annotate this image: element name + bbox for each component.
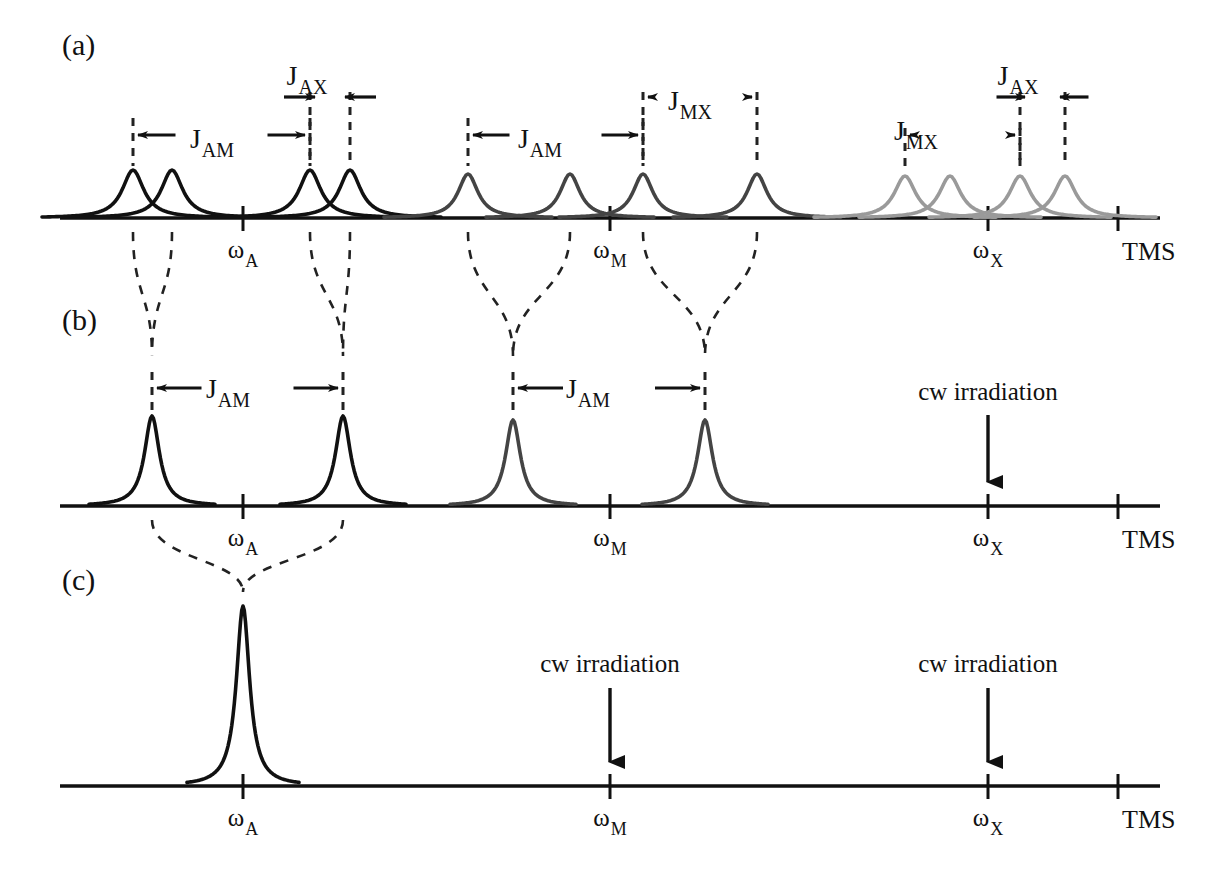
peak-a-A-3: [259, 170, 441, 217]
cw-irradiation-X-label: cw irradiation: [918, 378, 1058, 405]
peak-a-X-11: [974, 176, 1156, 217]
merge-M1-left: [468, 232, 513, 356]
peak-a-X-8: [814, 176, 996, 217]
merge-M1-right: [513, 232, 570, 356]
J-AM-left-label: JAM: [206, 373, 250, 411]
merge-A2-left: [310, 232, 343, 356]
cw-irradiation-X-label: cw irradiation: [918, 650, 1058, 677]
panel-b: (b)ωAωMωXTMSJAMJAMcw irradiation: [60, 303, 1175, 559]
panel-a: (a)ωAωMωXTMSJAMJAXJAMJMXJMXJAX: [42, 28, 1175, 271]
axis-label-omega-X-a: ωX: [973, 236, 1003, 271]
peak-a-M-6: [559, 174, 727, 217]
merge-A2-right: [343, 232, 350, 356]
peak-a-A-0: [42, 170, 224, 217]
J-AM-right-label: JAM: [566, 373, 610, 411]
peak-a-M-7: [673, 174, 841, 217]
axis-label-omega-X-b: ωX: [973, 524, 1003, 559]
panel-label-a: (a): [62, 28, 95, 62]
J-MX-right-label: JMX: [894, 115, 939, 153]
axis-label-tms-a: TMS: [1122, 237, 1175, 266]
peak-a-A-2: [219, 170, 401, 217]
merge-A1-right: [152, 232, 172, 356]
peak-b-A-0: [89, 416, 215, 504]
axis-label-omega-X-c: ωX: [973, 804, 1003, 839]
peak-c-A-0: [187, 606, 299, 782]
correlation-links-a-to-b: [133, 232, 757, 356]
panel-label-c: (c): [62, 563, 95, 597]
peak-a-M-5: [486, 174, 654, 217]
J-MX-mid-label: JMX: [668, 85, 713, 123]
axis-label-omega-A-a: ωA: [228, 236, 258, 271]
axis-label-omega-A-c: ωA: [228, 804, 258, 839]
figure-canvas: (a)ωAωMωXTMSJAMJAXJAMJMXJMXJAX(b)ωAωMωXT…: [0, 0, 1220, 882]
axis-label-omega-M-c: ωM: [593, 804, 626, 839]
J-AM-left-label: JAM: [190, 123, 234, 161]
J-AX-right-label: JAX: [998, 60, 1039, 98]
peak-a-M-4: [384, 174, 552, 217]
peak-b-M-2: [450, 420, 576, 504]
axis-label-omega-A-b: ωA: [228, 524, 258, 559]
merge-M2-right: [705, 232, 757, 356]
merge-M2-left: [643, 232, 705, 356]
axis-label-tms-b: TMS: [1122, 525, 1175, 554]
panel-c: (c)ωAωMωXTMScw irradiationcw irradiation: [60, 563, 1175, 839]
nmr-decoupling-figure: (a)ωAωMωXTMSJAMJAXJAMJMXJMXJAX(b)ωAωMωXT…: [0, 0, 1220, 882]
peak-a-A-1: [81, 170, 263, 217]
panel-label-b: (b): [62, 303, 97, 337]
J-AX-left-label: JAX: [287, 60, 328, 98]
axis-label-omega-M-b: ωM: [593, 524, 626, 559]
peak-b-M-3: [642, 420, 768, 504]
axis-label-tms-c: TMS: [1122, 805, 1175, 834]
axis-label-omega-M-a: ωM: [593, 236, 626, 271]
cw-irradiation-M-label: cw irradiation: [540, 650, 680, 677]
J-AM-right-label: JAM: [518, 123, 562, 161]
merge-A1-left: [133, 232, 152, 356]
peak-b-A-1: [280, 416, 406, 504]
